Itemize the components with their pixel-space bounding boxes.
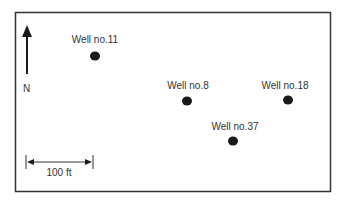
well-37: Well no.37: [211, 121, 259, 146]
scale-arrow-left-icon: [27, 159, 34, 165]
north-arrow: N: [22, 25, 32, 94]
north-label: N: [23, 83, 30, 94]
well-label: Well no.11: [72, 34, 119, 45]
well-18: Well no.18: [261, 80, 309, 105]
scale-label: 100 ft: [46, 167, 71, 178]
scale-bar: 100 ft: [26, 155, 93, 178]
well-label: Well no.8: [167, 80, 209, 91]
map-border: [16, 13, 331, 192]
scale-arrow-right-icon: [85, 159, 92, 165]
well-marker-icon: [90, 52, 100, 61]
north-arrow-head-icon: [22, 25, 32, 37]
well-location-map: N Well no.11 Well no.8 Well no.18 Well n…: [0, 0, 345, 201]
well-8: Well no.8: [167, 80, 209, 106]
well-label: Well no.18: [261, 80, 309, 91]
well-marker-icon: [283, 96, 293, 105]
well-marker-icon: [228, 137, 238, 146]
well-11: Well no.11: [72, 34, 119, 61]
well-label: Well no.37: [211, 121, 259, 132]
well-marker-icon: [182, 97, 192, 106]
